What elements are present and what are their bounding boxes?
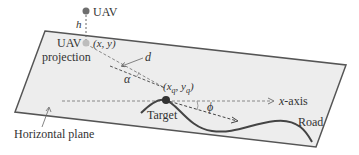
uav-projection-label-1: UAV: [57, 36, 82, 50]
uav-projection-dot: [83, 40, 90, 47]
target-dot: [162, 96, 170, 104]
road-label: Road: [298, 115, 323, 129]
h-label: h: [76, 18, 82, 30]
uav-label: UAV: [93, 5, 118, 19]
target-label: Target: [147, 108, 178, 122]
phi-label: ϕ: [207, 100, 213, 114]
horizontal-plane-label: Horizontal plane: [14, 127, 94, 141]
uav-dot: [83, 8, 90, 15]
uav-projection-label-2: projection: [42, 50, 91, 64]
x-axis-label: x-axis: [278, 94, 308, 108]
alpha-label: α: [124, 72, 131, 86]
uav-coords-label: (x, y): [93, 37, 116, 50]
d-label: d: [145, 50, 152, 64]
uav-target-geometry-diagram: UAV h UAV projection (x, y) d α (xq, yq)…: [0, 0, 359, 155]
